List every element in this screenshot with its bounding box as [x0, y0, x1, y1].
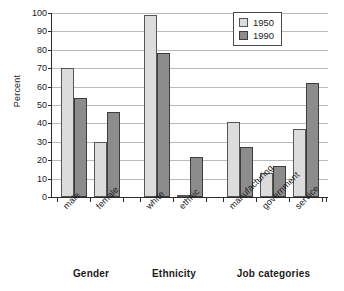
y-tick-label: 20	[37, 155, 47, 165]
x-tick-mark	[123, 197, 124, 202]
y-tick-label: 10	[37, 174, 47, 184]
bar	[61, 68, 74, 197]
bar	[227, 122, 240, 197]
legend-label-1950: 1950	[253, 17, 274, 28]
y-tick-label: 80	[37, 45, 47, 55]
y-tick-label: 60	[37, 82, 47, 92]
y-tick-label: 0	[42, 192, 47, 202]
x-tick-mark	[256, 197, 257, 202]
y-axis-title: Percent	[12, 46, 22, 136]
bar	[306, 83, 319, 197]
bar	[157, 53, 170, 197]
bar-series-container	[52, 13, 328, 197]
group-title: Gender	[73, 268, 109, 279]
legend-swatch-1950	[239, 18, 248, 27]
x-tick-mark	[173, 197, 174, 202]
y-tick-label: 30	[37, 137, 47, 147]
x-tick-mark	[140, 197, 141, 202]
x-tick-mark	[322, 197, 323, 202]
x-tick-mark	[223, 197, 224, 202]
legend-item-1950: 1950	[239, 16, 274, 29]
bar	[74, 98, 87, 197]
y-tick-mark	[48, 197, 52, 198]
y-tick-label: 100	[32, 8, 47, 18]
legend-item-1990: 1990	[239, 29, 274, 42]
bar	[293, 129, 306, 197]
legend: 1950 1990	[233, 12, 282, 46]
plot-area: 0102030405060708090100	[51, 13, 328, 198]
y-tick-label: 50	[37, 100, 47, 110]
bar	[144, 15, 157, 197]
y-tick-label: 90	[37, 26, 47, 36]
x-tick-mark	[289, 197, 290, 202]
y-tick-label: 40	[37, 118, 47, 128]
bar-chart-figure: Percent 0102030405060708090100 malefemal…	[0, 0, 344, 291]
x-tick-mark	[57, 197, 58, 202]
legend-label-1990: 1990	[253, 30, 274, 41]
x-tick-mark	[206, 197, 207, 202]
group-title: Job categories	[237, 268, 310, 279]
x-tick-mark	[90, 197, 91, 202]
bar	[94, 142, 107, 197]
legend-swatch-1990	[239, 31, 248, 40]
x-tick-mark	[326, 197, 327, 202]
group-title: Ethnicity	[152, 268, 196, 279]
y-tick-label: 70	[37, 63, 47, 73]
